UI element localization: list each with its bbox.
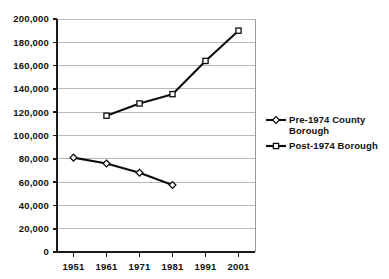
gridlines-group — [57, 19, 255, 229]
y-tick-label: 100,000 — [13, 130, 49, 141]
data-point-marker — [203, 58, 208, 63]
x-tick-label: 1981 — [162, 261, 184, 272]
y-tick-label: 120,000 — [13, 107, 49, 118]
legend-label: Post-1974 Borough — [289, 140, 378, 151]
data-point-marker — [104, 113, 109, 118]
y-tick-label: 160,000 — [13, 60, 49, 71]
y-axis-tick-labels: 020,00040,00060,00080,000100,000120,0001… — [13, 13, 49, 257]
data-point-marker — [137, 101, 142, 106]
chart-canvas: 020,00040,00060,00080,000100,000120,0001… — [0, 0, 389, 279]
data-point-marker — [170, 92, 175, 97]
y-tick-label: 60,000 — [19, 177, 49, 188]
x-axis-tick-labels: 195119611971198119912001 — [63, 261, 250, 272]
y-tick-label: 200,000 — [13, 13, 49, 24]
data-series-layer — [70, 28, 241, 188]
x-tick-label: 1991 — [195, 261, 217, 272]
series-line-1 — [74, 158, 173, 185]
x-tick-label: 1951 — [63, 261, 85, 272]
x-tick-label: 1971 — [129, 261, 151, 272]
x-tick-label: 1961 — [96, 261, 118, 272]
y-tick-label: 40,000 — [19, 200, 49, 211]
y-tick-label: 180,000 — [13, 37, 49, 48]
chart-legend: Pre-1974 CountyBoroughPost-1974 Borough — [266, 114, 378, 151]
x-tick-label: 2001 — [228, 261, 250, 272]
series-line-2 — [107, 31, 239, 116]
legend-label: Pre-1974 County — [289, 114, 366, 125]
data-point-marker — [236, 28, 241, 33]
data-point-marker — [103, 160, 110, 167]
y-tick-label: 140,000 — [13, 83, 49, 94]
data-point-marker — [136, 169, 143, 176]
legend-label-continued: Borough — [289, 125, 329, 136]
data-point-marker — [70, 154, 77, 161]
data-point-marker — [169, 182, 176, 189]
line-chart: 020,00040,00060,00080,000100,000120,0001… — [0, 0, 389, 279]
y-tick-label: 0 — [44, 246, 49, 257]
legend-marker — [273, 143, 278, 148]
y-tick-label: 80,000 — [19, 153, 49, 164]
y-tick-label: 20,000 — [19, 223, 49, 234]
legend-marker — [273, 117, 280, 124]
